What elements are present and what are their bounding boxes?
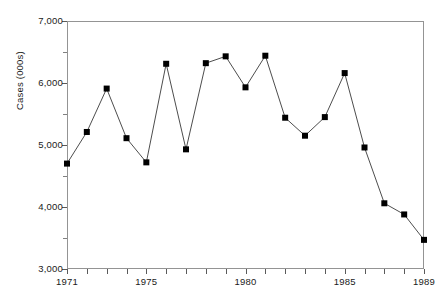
x-axis-tick [226,269,227,274]
plot-area [67,21,424,269]
y-axis-tick-label: 5,000 [38,139,63,150]
x-axis-tick [404,269,405,274]
x-axis-tick [206,269,207,274]
x-axis-tick-label: 1980 [235,276,257,287]
y-axis-minor-tick [63,176,67,177]
y-axis-minor-tick [63,114,67,115]
x-axis-tick-label: 1975 [135,276,157,287]
x-axis-tick [127,269,128,274]
x-axis-tick-label: 1971 [56,276,78,287]
y-axis-minor-tick [63,238,67,239]
chart-figure: Cases (000s) 3,0004,0005,0006,0007,000 1… [0,0,441,303]
x-axis-tick [345,269,346,274]
x-axis-tick [186,269,187,274]
y-axis-tick-label: 6,000 [38,77,63,88]
x-axis-tick [166,269,167,274]
x-axis-tick [265,269,266,274]
x-axis-tick [87,269,88,274]
x-axis-tick [67,269,68,274]
y-axis-tick-label: 3,000 [38,263,63,274]
x-axis-tick [246,269,247,274]
y-axis-tick-label: 7,000 [38,15,63,26]
x-axis-tick [325,269,326,274]
x-axis-tick-label: 1985 [334,276,356,287]
y-axis-minor-tick [63,52,67,53]
y-axis-title: Cases (000s) [14,96,25,110]
x-axis-tick [146,269,147,274]
x-axis-tick [384,269,385,274]
x-axis-tick [424,269,425,274]
x-axis-tick [365,269,366,274]
x-axis-tick [107,269,108,274]
x-axis-tick-label: 1989 [413,276,435,287]
x-axis-tick [285,269,286,274]
y-axis-tick-label: 4,000 [38,201,63,212]
x-axis-tick [305,269,306,274]
